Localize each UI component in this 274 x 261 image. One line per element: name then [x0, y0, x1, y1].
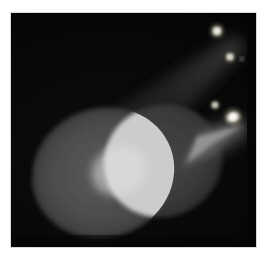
screenshot-root — [0, 0, 274, 261]
photograph — [11, 13, 256, 247]
film-grain-overlay — [11, 13, 256, 247]
